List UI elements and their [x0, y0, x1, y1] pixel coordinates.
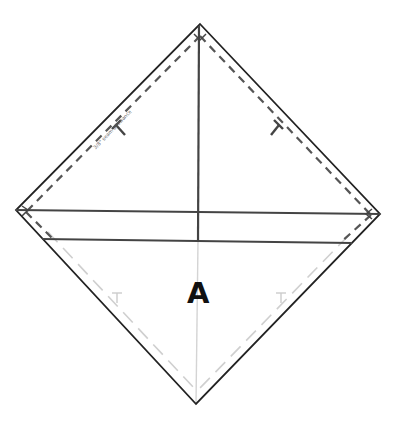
pattern-diagram: [0, 0, 411, 436]
center-line-lower: [196, 241, 198, 404]
corner-marks: [22, 34, 372, 219]
piece-label: A: [187, 279, 209, 308]
center-line-upper: [198, 26, 199, 241]
